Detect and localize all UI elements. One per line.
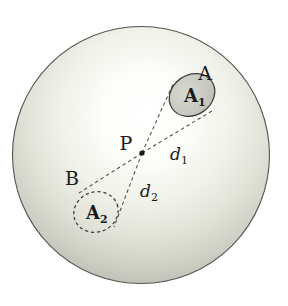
geometry-figure: A B P A1 A2 d1 d2 xyxy=(0,0,288,306)
label-a1-subscript: 1 xyxy=(198,96,206,109)
label-region-b-outer: B xyxy=(65,167,79,189)
label-region-a-outer: A xyxy=(197,62,212,84)
label-a2-subscript: 2 xyxy=(100,213,108,226)
point-p-dot xyxy=(139,150,144,155)
label-d2-subscript: 2 xyxy=(151,191,158,204)
label-point-p: P xyxy=(120,132,133,154)
label-d1-subscript: 1 xyxy=(181,154,188,167)
figure-canvas: A B P A1 A2 d1 d2 xyxy=(0,0,288,306)
